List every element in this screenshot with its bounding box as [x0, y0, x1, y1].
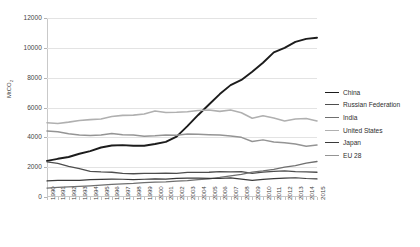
y-axis-tick-label: 0 — [0, 194, 42, 201]
legend-swatch-icon — [325, 92, 339, 93]
x-axis-tick-mark — [47, 197, 48, 200]
series-line — [47, 131, 317, 146]
legend-swatch-icon — [325, 104, 339, 105]
x-axis-tick-mark — [155, 197, 156, 200]
y-axis-title-subscript: 2 — [9, 80, 14, 82]
series-line — [47, 162, 317, 189]
legend-label: EU 28 — [343, 152, 361, 159]
series-lines — [47, 18, 317, 197]
x-axis-tick-mark — [317, 197, 318, 200]
legend-item[interactable]: Japan — [325, 136, 400, 149]
y-axis-tick-label: 4000 — [0, 134, 42, 141]
y-axis-tick-label: 2000 — [0, 164, 42, 171]
x-axis-tick-mark — [263, 197, 264, 200]
legend-swatch-icon — [325, 117, 339, 118]
legend-label: Japan — [343, 139, 361, 146]
legend-item[interactable]: United States — [325, 124, 400, 137]
y-axis-title-base: MtCO — [6, 82, 12, 98]
series-line — [47, 110, 317, 123]
legend: ChinaRussian FederationIndiaUnited State… — [325, 86, 400, 162]
legend-item[interactable]: China — [325, 86, 400, 99]
legend-item[interactable]: India — [325, 111, 400, 124]
y-axis-tick-label: 12000 — [0, 15, 42, 22]
series-line — [47, 162, 317, 174]
legend-label: Russian Federation — [343, 101, 400, 108]
y-axis-tick-label: 10000 — [0, 45, 42, 52]
x-axis-tick-label: 2015 — [320, 186, 326, 200]
emissions-line-chart: 020004000600080001000012000 MtCO2 199019… — [0, 0, 420, 247]
x-axis-tick-mark — [101, 197, 102, 200]
y-axis-title: MtCO2 — [6, 80, 15, 98]
legend-swatch-icon — [325, 142, 339, 143]
x-axis-tick-mark — [209, 197, 210, 200]
y-axis-tick-label: 6000 — [0, 105, 42, 112]
legend-swatch-icon — [325, 155, 339, 156]
legend-label: United States — [343, 127, 383, 134]
legend-swatch-icon — [325, 130, 339, 131]
legend-label: China — [343, 89, 360, 96]
legend-item[interactable]: Russian Federation — [325, 99, 400, 112]
legend-item[interactable]: EU 28 — [325, 149, 400, 162]
legend-label: India — [343, 114, 357, 121]
